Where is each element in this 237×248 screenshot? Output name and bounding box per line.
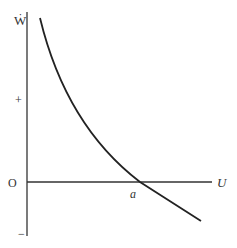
- origin-label: O: [8, 176, 17, 190]
- plus-label: +: [15, 93, 22, 107]
- minus-label: −: [18, 227, 25, 241]
- y-axis-label: Ẇ: [14, 13, 27, 28]
- x-axis-label: U: [217, 175, 228, 190]
- diagram: Ẇ U O + − a: [0, 0, 237, 248]
- curve: [40, 18, 201, 221]
- intercept-label: a: [130, 187, 136, 201]
